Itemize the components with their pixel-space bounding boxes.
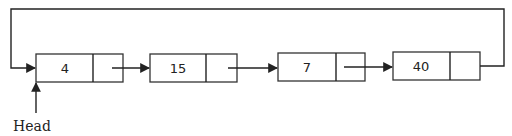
node-1-value: 4 [61,61,69,76]
node-2-value: 15 [170,61,187,76]
head-label: Head [13,118,51,134]
node-1-box [36,54,123,82]
list-node-4: 40 [393,52,480,80]
linked-list-diagram: 4 15 7 40 Head [0,0,512,136]
node-4-value: 40 [413,59,430,74]
node-4-box [393,52,480,80]
node-2-box [150,54,237,82]
list-node-1: 4 [36,54,123,82]
list-node-2: 15 [150,54,237,82]
node-3-value: 7 [303,60,311,75]
